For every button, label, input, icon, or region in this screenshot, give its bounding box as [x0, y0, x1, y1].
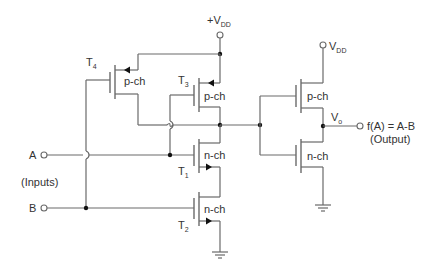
output-terminal[interactable]: [357, 123, 363, 129]
transistor-t4: T4 p-ch: [86, 54, 220, 208]
t1-label: T1: [178, 165, 189, 179]
input-a-junction: [168, 153, 172, 157]
t1-source-arrow: [206, 164, 212, 171]
vdd-right-terminal: [320, 42, 326, 48]
transistor-t3: T3 p-ch: [170, 54, 225, 155]
inverter-p-type: p-ch: [307, 90, 328, 102]
t3-type: p-ch: [204, 90, 225, 102]
inverter-n-type: n-ch: [307, 150, 328, 162]
t4-source-arrow: [124, 67, 130, 74]
t4-label: T4: [86, 56, 97, 70]
ground-icon-left: [212, 252, 228, 258]
ground-icon-right: [315, 205, 331, 211]
input-a-terminal[interactable]: [41, 152, 47, 158]
t2-source-arrow: [206, 218, 212, 225]
input-b-label: B: [29, 202, 36, 214]
input-b-terminal[interactable]: [41, 205, 47, 211]
t2-label: T2: [178, 219, 189, 233]
input-a: A: [29, 149, 194, 161]
t2-type: n-ch: [204, 203, 225, 215]
t4-type: p-ch: [124, 75, 145, 87]
cmos-circuit-diagram: +VDD T4 p-ch T3: [0, 0, 428, 271]
inputs-caption: (Inputs): [21, 176, 58, 188]
vdd-top-label: +VDD: [207, 14, 231, 28]
t3-label: T3: [178, 74, 189, 88]
t3-source-arrow: [208, 80, 214, 87]
input-b: B: [29, 202, 194, 214]
vdd-top-supply: +VDD: [207, 14, 231, 56]
vdd-right-label: VDD: [329, 40, 346, 54]
transistor-t2: n-ch T2: [178, 192, 225, 252]
input-a-label: A: [29, 149, 37, 161]
output-caption: (Output): [370, 133, 410, 145]
input-b-junction: [84, 206, 88, 210]
t1-type: n-ch: [204, 149, 225, 161]
vo-label: Vo: [331, 111, 342, 125]
transistor-t1: n-ch T1: [178, 125, 225, 197]
output-function-label: f(A) = A-B: [367, 120, 415, 132]
vdd-top-terminal: [217, 32, 223, 38]
output-inverter: VDD p-ch Vo n-ch: [260, 40, 363, 205]
